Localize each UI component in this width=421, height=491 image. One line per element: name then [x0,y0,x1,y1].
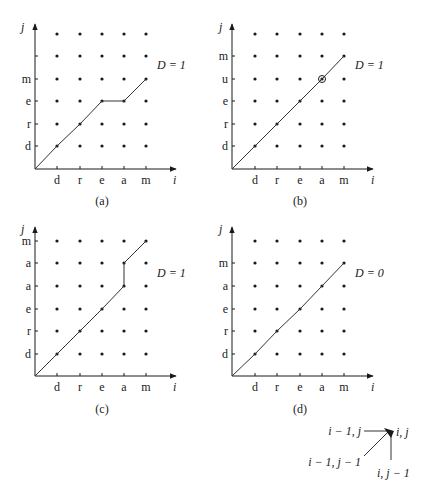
panel-caption: (a) [95,194,108,208]
x-tick-label: e [297,380,302,394]
x-tick-label: d [54,173,60,187]
x-tick-label: e [99,380,104,394]
x-tick-label: r [78,380,82,394]
y-tick-label: r [27,324,31,338]
x-tick-label: d [252,173,258,187]
y-tick-label: d [25,347,31,361]
y-tick-label: r [27,117,31,131]
x-axis-label: i [371,380,374,394]
y-tick-label: d [222,139,228,153]
x-tick-label: r [275,173,279,187]
panel-caption: (b) [293,194,307,208]
x-axis-label: i [371,173,374,187]
x-tick-label: d [54,380,60,394]
alignment-path [35,241,146,376]
x-tick-label: e [99,173,104,187]
x-tick-label: m [339,380,349,394]
y-tick-label: d [25,139,31,153]
panel-d: j i d r e a m d r e a m D = 0 (d) [217,222,384,416]
panel-a: j i d r e a m d r e m D = 1 (a) [19,20,186,208]
y-tick-label: m [22,234,32,248]
grid-dots [253,32,345,147]
distance-label: D = 0 [354,266,384,280]
y-tick-label: d [222,347,228,361]
alignment-path [232,56,344,169]
distance-label: D = 1 [354,58,384,72]
legend-target-label: i, j [396,425,409,439]
panel-c: j i d r e a m d r e a a m D = 1 (c) [19,222,186,416]
edit-distance-figure: j i d r e a m d r e m D = 1 (a) [0,0,421,491]
y-tick-label: a [223,279,229,293]
panel-b: j i d r e a m d r e u m D = 1 (b) [217,20,384,208]
x-tick-label: r [78,173,82,187]
y-tick-label: a [26,279,32,293]
diagonal-transition [364,432,388,456]
grid-dots [55,239,147,355]
y-tick-label: m [219,49,229,63]
y-tick-label: r [224,324,228,338]
x-axis-label: i [173,173,176,187]
alignment-path [35,79,146,169]
x-tick-label: e [297,173,302,187]
x-tick-label: m [141,173,151,187]
y-tick-label: u [222,72,228,86]
y-tick-label: e [26,94,31,108]
x-tick-label: d [252,380,258,394]
panel-caption: (c) [95,402,108,416]
x-tick-label: r [275,380,279,394]
y-axis-label: j [19,20,25,34]
y-tick-label: e [223,302,228,316]
y-axis-label: j [217,222,223,236]
y-tick-label: a [26,256,32,270]
y-axis-label: j [217,20,223,34]
x-axis-label: i [173,380,176,394]
distance-label: D = 1 [156,58,186,72]
y-tick-label: e [26,302,31,316]
x-tick-label: a [121,173,127,187]
grid-dots [253,239,345,355]
x-tick-label: m [141,380,151,394]
x-tick-label: a [319,380,325,394]
arrowhead-icon [384,428,394,438]
legend-left-label: i − 1, j [328,424,361,438]
legend-below-label: i, j − 1 [377,466,410,480]
alignment-path [232,263,344,376]
x-tick-label: a [319,173,325,187]
y-tick-label: m [22,72,32,86]
y-tick-label: r [224,117,228,131]
legend-diag-label: i − 1, j − 1 [308,455,361,469]
transition-legend: i, j i − 1, j i − 1, j − 1 i, j − 1 [308,424,410,480]
y-tick-label: m [219,256,229,270]
grid-dots [55,32,147,147]
distance-label: D = 1 [156,266,186,280]
panel-caption: (d) [293,402,307,416]
y-tick-label: e [223,94,228,108]
x-tick-label: a [121,380,127,394]
x-tick-label: m [339,173,349,187]
